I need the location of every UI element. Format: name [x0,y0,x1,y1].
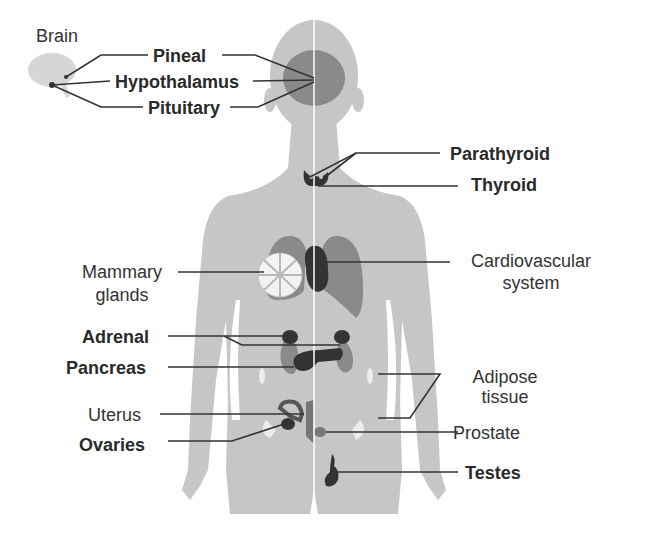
label-thyroid: Thyroid [471,175,537,195]
label-mammary: Mammary [72,262,172,282]
label-cardiovascular: Cardiovascular [456,251,606,271]
label-parathyroid: Parathyroid [450,144,550,164]
label-tissue: tissue [460,387,550,407]
label-uterus: Uterus [88,405,141,425]
label-ovaries: Ovaries [79,435,145,455]
adrenal-right [334,330,350,344]
label-prostate: Prostate [453,423,520,443]
label-testes: Testes [465,463,521,483]
label-hypothalamus: Hypothalamus [115,72,239,92]
prostate [314,427,326,437]
label-pituitary: Pituitary [148,98,220,118]
label-pancreas: Pancreas [66,358,146,378]
label-adrenal: Adrenal [82,327,149,347]
label-adipose: Adipose [460,367,550,387]
mammary-gland [258,253,302,297]
adrenal-left [282,330,298,344]
label-system: system [456,273,606,293]
label-pineal: Pineal [153,46,206,66]
label-glands: glands [72,285,172,305]
label-brain: Brain [36,26,78,46]
